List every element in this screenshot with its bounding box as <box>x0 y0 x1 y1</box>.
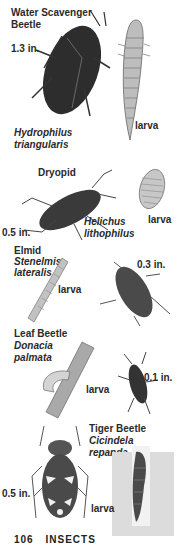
tiger-beetle-name: Tiger Beetle <box>89 423 146 434</box>
dryopid-genus: Helichus <box>84 216 126 227</box>
leaf-beetle-size: 0.1 in. <box>144 372 172 383</box>
page-number: 106 <box>14 534 34 545</box>
leaf-beetle-illustration <box>114 350 164 418</box>
tiger-beetle-size: 0.5 in. <box>2 488 30 499</box>
water-scavenger-species: triangularis <box>14 139 68 150</box>
tiger-beetle-larva-burrow-illustration <box>110 446 176 538</box>
elmid-larva-label: larva <box>58 284 81 295</box>
dryopid-larva-label: larva <box>148 214 171 225</box>
elmid-beetle-illustration <box>94 256 176 328</box>
tiger-beetle-larva-label: larva <box>91 503 114 514</box>
dryopid-larva-illustration <box>136 166 168 212</box>
tiger-beetle-genus: Cicindela <box>89 435 133 446</box>
dryopid-size: 0.5 in. <box>2 227 30 238</box>
leaf-beetle-larva-label: larva <box>86 384 109 395</box>
tiger-beetle-illustration <box>30 426 90 526</box>
section-title: INSECTS <box>45 534 95 545</box>
water-scavenger-beetle-illustration <box>22 8 112 120</box>
leaf-beetle-larva-illustration <box>36 340 106 420</box>
page-footer: 106 INSECTS <box>14 534 104 545</box>
water-scavenger-larva-label: larva <box>135 120 158 131</box>
water-scavenger-genus: Hydrophilus <box>14 127 72 138</box>
leaf-beetle-name: Leaf Beetle <box>14 328 67 339</box>
dryopid-species: lithophilus <box>84 228 135 239</box>
